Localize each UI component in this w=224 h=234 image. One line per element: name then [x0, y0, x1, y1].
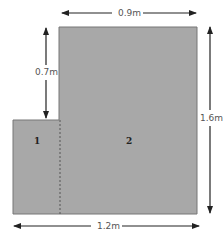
step-height-label: 0.7m: [35, 67, 58, 77]
region-1-label: 1: [34, 136, 40, 146]
right-height-label: 1.6m: [200, 113, 223, 123]
region-2-label: 2: [126, 136, 132, 146]
composite-shape-diagram: [0, 0, 224, 234]
composite-shape: [13, 27, 197, 214]
top-width-label: 0.9m: [118, 8, 141, 18]
bottom-width-label: 1.2m: [97, 221, 120, 231]
